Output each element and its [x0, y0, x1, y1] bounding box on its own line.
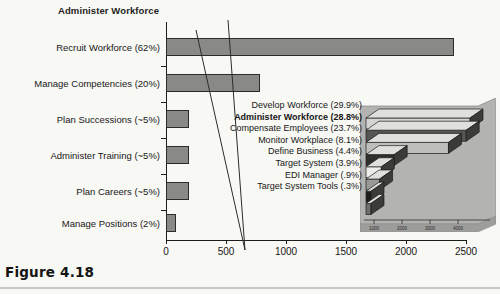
inset-x-tick-label-1: 2000 — [397, 226, 408, 231]
category-label-2: Plan Successions (~5%) — [4, 114, 160, 125]
x-tick-label-5: 2500 — [455, 246, 477, 257]
y-tick-2 — [161, 138, 166, 139]
inset-label-5: Target System (3.9%) — [196, 158, 362, 170]
y-tick-1 — [161, 102, 166, 103]
inset-label-2: Compensate Employees (23.7%) — [196, 123, 362, 135]
inset-label-4: Define Business (4.4%) — [196, 146, 362, 158]
x-tick-label-0: 0 — [163, 246, 169, 257]
inset-legend-labels: Develop Workforce (29.9%)Administer Work… — [196, 100, 362, 193]
inset-bar-top-0 — [366, 109, 483, 118]
inset-x-tick-label-3: 4000 — [453, 226, 464, 231]
x-tick-label-4: 2000 — [395, 246, 417, 257]
y-tick-3 — [161, 174, 166, 175]
bar-5 — [166, 214, 176, 232]
figure-caption: Figure 4.18 — [5, 264, 94, 280]
category-label-4: Plan Careers (~5%) — [4, 186, 160, 197]
x-tick-label-2: 1000 — [275, 246, 297, 257]
x-tick-label-1: 500 — [218, 246, 235, 257]
inset-label-6: EDI Manager (.9%) — [196, 170, 362, 182]
bar-0 — [166, 38, 454, 56]
chart-title: Administer Workforce — [58, 5, 159, 16]
inset-bar-top-1 — [366, 121, 479, 130]
x-axis — [166, 240, 466, 241]
x-tick-2 — [286, 240, 287, 244]
inset-label-0: Develop Workforce (29.9%) — [196, 100, 362, 112]
inset-bar-front-7 — [366, 203, 371, 214]
x-tick-label-3: 1500 — [335, 246, 357, 257]
bar-1 — [166, 74, 260, 92]
x-tick-0 — [166, 240, 167, 244]
category-label-1: Manage Competencies (20%) — [4, 78, 160, 89]
inset-3d-chart: 1000200030004000 — [360, 98, 496, 232]
x-tick-5 — [466, 240, 467, 244]
inset-bar-top-2 — [366, 133, 461, 142]
figure-container: Administer Workforce Recruit Workforce (… — [0, 0, 500, 294]
x-tick-4 — [406, 240, 407, 244]
y-tick-4 — [161, 210, 166, 211]
inset-label-1: Administer Workforce (28.8%) — [196, 112, 362, 124]
category-label-5: Manage Positions (2%) — [4, 218, 160, 229]
inset-label-7: Target System Tools (.3%) — [196, 181, 362, 193]
inset-3d-svg: 1000200030004000 — [360, 98, 496, 232]
inset-x-tick-label-2: 3000 — [425, 226, 436, 231]
y-tick-0 — [161, 66, 166, 67]
x-tick-1 — [226, 240, 227, 244]
inset-label-3: Monitor Workplace (8.1%) — [196, 135, 362, 147]
category-label-3: Administer Training (~5%) — [4, 150, 160, 161]
bar-3 — [166, 146, 189, 164]
caption-rule — [0, 287, 500, 289]
category-label-0: Recruit Workforce (62%) — [4, 42, 160, 53]
bar-2 — [166, 110, 189, 128]
bar-4 — [166, 182, 189, 200]
inset-x-tick-label-0: 1000 — [369, 226, 380, 231]
x-tick-3 — [346, 240, 347, 244]
